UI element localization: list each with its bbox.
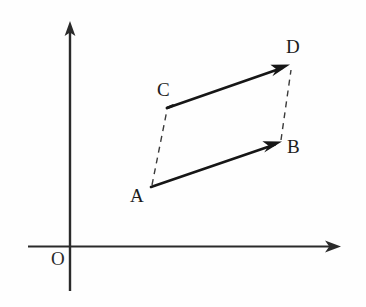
segment-ac-dashed [152,110,167,185]
vector-cd-shaft [167,68,282,108]
vector-ab-shaft [151,145,275,188]
point-label-b: B [287,137,300,156]
point-label-a: A [130,186,144,205]
point-label-d: D [286,37,300,56]
point-label-c: C [157,80,170,99]
geometry-figure: A B C D O [0,0,366,307]
segment-bd-dashed [281,70,291,140]
origin-label: O [51,249,65,268]
vector-cd-elbow [167,106,173,109]
